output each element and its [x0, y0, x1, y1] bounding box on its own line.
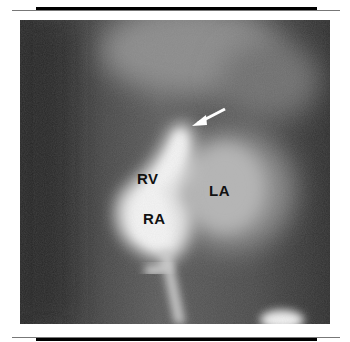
bottom-thick-rule — [36, 338, 317, 341]
top-thin-rule — [12, 10, 340, 11]
label-right-ventricle: RV — [137, 170, 159, 187]
film-grain — [20, 20, 330, 324]
angiogram-image: RV RA LA — [20, 20, 330, 324]
label-right-atrium: RA — [143, 210, 166, 227]
label-left-atrium: LA — [209, 182, 230, 199]
top-thick-rule — [36, 7, 317, 10]
angiogram-graphic — [20, 20, 330, 324]
